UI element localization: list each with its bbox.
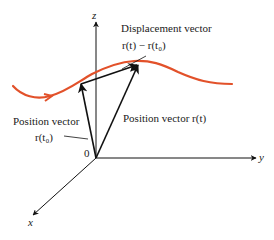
origin-label: 0 — [84, 147, 90, 159]
x-axis — [33, 158, 96, 215]
r0-leader-line — [64, 136, 88, 139]
z-axis-label: z — [91, 9, 97, 21]
trajectory-curve — [13, 61, 232, 98]
position-vector-r0-title: Position vector — [13, 115, 80, 127]
x-axis-label: x — [27, 216, 33, 228]
position-vector-r0-expression: r(t₀) — [35, 131, 53, 144]
y-axis-label: y — [258, 151, 264, 163]
position-vector-rt-label: Position vector r(t) — [123, 112, 206, 125]
displacement-vector-expression: r(t) − r(t₀) — [122, 39, 166, 52]
vector-diagram: z y x 0 Displacement vector r(t) − r(t₀)… — [0, 0, 274, 240]
displacement-vector-title: Displacement vector — [121, 22, 212, 34]
